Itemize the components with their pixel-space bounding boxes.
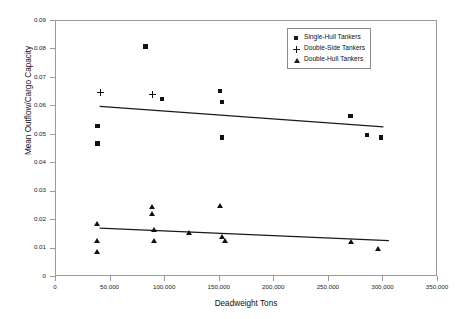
- trendline: [100, 106, 384, 126]
- x-tick-label: 300,000: [360, 284, 404, 290]
- legend-item-label: Single-Hull Tankers: [304, 34, 361, 41]
- y-tick-label: 0.02: [16, 216, 46, 222]
- data-point-square: [218, 89, 222, 93]
- x-tick-label: 0: [33, 284, 77, 290]
- data-point-triangle: [94, 238, 100, 243]
- legend-plus-icon: [292, 44, 301, 53]
- data-point-plus: [149, 91, 156, 98]
- data-point-square: [365, 133, 369, 137]
- trendlines-layer: [56, 21, 438, 277]
- data-point-triangle: [186, 230, 192, 235]
- data-point-triangle: [222, 238, 228, 243]
- legend: Single-Hull TankersDouble-Side TankersDo…: [287, 28, 371, 69]
- x-axis-title: Deadweight Tons: [55, 299, 437, 308]
- y-tick-label: 0.01: [16, 244, 46, 250]
- y-tick-label: 0: [16, 273, 46, 279]
- x-tick-label: 200,000: [251, 284, 295, 290]
- legend-square-icon: [292, 33, 301, 42]
- data-point-square: [220, 135, 224, 139]
- plot-area: [55, 20, 437, 276]
- data-point-square: [348, 114, 352, 118]
- data-point-triangle: [375, 246, 381, 251]
- data-point-triangle: [151, 227, 157, 232]
- scatter-chart: 00.010.020.030.040.050.060.070.080.09 05…: [0, 0, 468, 319]
- legend-item: Double-Hull Tankers: [292, 54, 365, 65]
- data-point-square: [160, 97, 164, 101]
- legend-item: Double-Side Tankers: [292, 43, 365, 54]
- y-tick-label: 0.03: [16, 187, 46, 193]
- x-tick-label: 350,000: [415, 284, 459, 290]
- legend-item-label: Double-Hull Tankers: [304, 56, 363, 63]
- trendline: [100, 228, 389, 241]
- data-point-triangle: [149, 204, 155, 209]
- data-point-square: [95, 124, 99, 128]
- x-tick-label: 250,000: [306, 284, 350, 290]
- data-point-square: [95, 141, 99, 145]
- x-tick-label: 100,000: [142, 284, 186, 290]
- data-point-square: [379, 135, 383, 139]
- data-point-triangle: [94, 249, 100, 254]
- y-axis-title: Mean Outflow/Cargo Capacity: [24, 21, 33, 181]
- data-point-square: [143, 44, 147, 48]
- x-tick-label: 50,000: [88, 284, 132, 290]
- legend-item: Single-Hull Tankers: [292, 32, 365, 43]
- legend-triangle-icon: [292, 55, 301, 64]
- data-point-square: [220, 100, 224, 104]
- data-point-triangle: [151, 238, 157, 243]
- data-point-triangle: [217, 203, 223, 208]
- data-point-triangle: [348, 239, 354, 244]
- x-tick-label: 150,000: [197, 284, 241, 290]
- data-point-triangle: [94, 221, 100, 226]
- legend-item-label: Double-Side Tankers: [304, 45, 365, 52]
- data-point-triangle: [149, 211, 155, 216]
- data-point-plus: [97, 89, 104, 96]
